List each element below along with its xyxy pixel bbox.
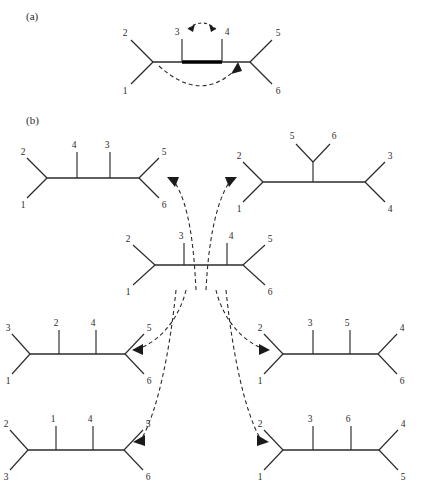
tr-label-5: 1 (237, 204, 242, 214)
ml-label-2: 2 (54, 318, 59, 328)
br-branch-b (264, 450, 283, 470)
a-branch-2 (131, 40, 153, 62)
transfer-arrows (132, 177, 270, 446)
a-label-6: 6 (276, 86, 281, 96)
br-label-2: 3 (308, 414, 313, 424)
center-branch-1 (133, 265, 155, 285)
bl-label-2: 1 (51, 414, 56, 424)
br-label-5: 1 (258, 472, 263, 482)
br-branch-e (379, 430, 398, 450)
tl-label-2: 4 (72, 140, 77, 150)
tr-branch-clade-left (296, 144, 313, 162)
arrow-to-top-left (174, 181, 196, 290)
center-label-6: 6 (268, 287, 273, 297)
arrow-to-bottom-right-head (257, 435, 269, 446)
tl-branch-a (27, 158, 47, 178)
tr-label-4: 3 (388, 151, 393, 161)
tree-top-left: 2 4 3 5 1 6 (21, 140, 167, 210)
tree-middle-left: 3 2 4 5 1 6 (6, 318, 152, 386)
tr-branch-e (365, 162, 385, 182)
tr-label-6: 4 (388, 204, 393, 214)
a-label-4: 4 (225, 27, 230, 37)
center-label-4: 4 (229, 231, 234, 241)
bl-label-6: 6 (146, 472, 151, 482)
arrow-to-middle-left (140, 290, 186, 348)
bl-label-5: 3 (4, 472, 9, 482)
mr-label-3: 5 (345, 318, 350, 328)
a-branch-1 (131, 62, 153, 84)
bl-branch-f (124, 450, 143, 470)
tl-label-3: 3 (105, 140, 110, 150)
ml-label-1: 3 (6, 323, 11, 333)
ml-branch-f (125, 354, 144, 374)
a-branch-6 (250, 62, 272, 84)
br-label-3: 6 (346, 414, 351, 424)
center-label-5: 5 (268, 234, 273, 244)
tl-branch-f (139, 178, 159, 198)
mr-label-2: 3 (308, 318, 313, 328)
br-branch-a (264, 430, 283, 450)
panel-a-tree: 2 3 4 5 1 6 (123, 23, 281, 96)
ml-label-5: 1 (6, 376, 11, 386)
mr-label-6: 6 (400, 376, 405, 386)
ml-label-4: 5 (147, 323, 152, 333)
center-label-2: 2 (126, 234, 131, 244)
a-branch-5 (250, 40, 272, 62)
mr-label-4: 4 (400, 323, 405, 333)
panel-label-a: (a) (26, 10, 39, 23)
tl-label-4: 5 (162, 147, 167, 157)
center-branch-2 (133, 245, 155, 265)
tr-label-3: 6 (332, 131, 337, 141)
a-label-1: 1 (123, 86, 128, 96)
mr-branch-f (378, 354, 397, 374)
tl-branch-b (27, 178, 47, 198)
tl-branch-e (139, 158, 159, 178)
tree-middle-right: 2 3 5 4 1 6 (258, 318, 405, 386)
tr-branch-b (243, 182, 263, 202)
center-tree: 2 3 4 5 1 6 (126, 231, 273, 297)
mr-label-5: 1 (258, 376, 263, 386)
center-branch-6 (243, 265, 265, 285)
a-label-5: 5 (276, 28, 281, 38)
mr-branch-e (378, 334, 397, 354)
mr-branch-b (264, 354, 283, 374)
figure-root: (a) 2 3 4 5 1 6 (0, 0, 423, 484)
ml-branch-b (12, 354, 30, 374)
tree-bottom-left: 2 1 4 5 3 6 (4, 414, 151, 482)
arrow-to-bottom-left-head (133, 435, 145, 446)
a-arc-left-to-right-head (231, 62, 242, 74)
arrow-to-bottom-right (226, 290, 260, 438)
panel-label-b: (b) (26, 114, 39, 127)
tree-bottom-right: 2 3 6 4 1 5 (258, 414, 406, 482)
a-arc-left-to-right (159, 66, 236, 86)
arrow-to-middle-right-head (259, 344, 270, 355)
br-label-4: 4 (401, 419, 406, 429)
tr-label-1: 2 (237, 151, 242, 161)
br-label-6: 5 (401, 472, 406, 482)
arrow-to-bottom-left (142, 290, 176, 438)
figure-canvas: (a) 2 3 4 5 1 6 (0, 0, 423, 484)
a-label-2: 2 (123, 28, 128, 38)
bl-label-3: 4 (88, 414, 93, 424)
ml-label-6: 6 (147, 376, 152, 386)
ml-branch-a (12, 334, 30, 354)
tr-label-2: 5 (290, 131, 295, 141)
tl-label-5: 1 (21, 200, 26, 210)
tr-branch-f (365, 182, 385, 202)
arrow-to-top-right (206, 181, 230, 290)
tr-branch-a (243, 162, 263, 182)
center-label-1: 1 (126, 287, 131, 297)
br-branch-f (379, 450, 398, 470)
tl-label-1: 2 (21, 147, 26, 157)
center-branch-5 (243, 245, 265, 265)
center-label-3: 3 (179, 231, 184, 241)
bl-label-4: 5 (146, 419, 151, 429)
arrow-to-middle-right (216, 290, 262, 348)
tl-label-6: 6 (162, 200, 167, 210)
bl-branch-b (10, 450, 28, 470)
bl-branch-a (10, 430, 28, 450)
ml-label-3: 4 (91, 318, 96, 328)
a-label-3: 3 (175, 27, 180, 37)
bl-label-1: 2 (4, 419, 9, 429)
mr-label-1: 2 (258, 323, 263, 333)
